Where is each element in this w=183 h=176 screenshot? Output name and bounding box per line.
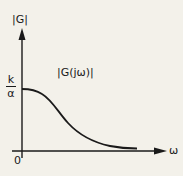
y-axis-label: |G| — [12, 14, 28, 25]
level-numerator: k — [8, 74, 14, 85]
curve-label: |G(jω)| — [57, 67, 94, 78]
level-denominator: α — [7, 88, 14, 99]
level-fraction: k α — [6, 74, 16, 99]
x-axis-arrow-icon — [154, 148, 167, 155]
x-axis-label: ω — [169, 145, 178, 156]
plot-graphics — [0, 0, 183, 176]
origin-label: 0 — [14, 155, 21, 166]
y-axis-arrow-icon — [19, 28, 26, 40]
magnitude-plot: |G| |G(jω)| k α 0 ω — [0, 0, 183, 176]
magnitude-curve — [22, 89, 137, 149]
